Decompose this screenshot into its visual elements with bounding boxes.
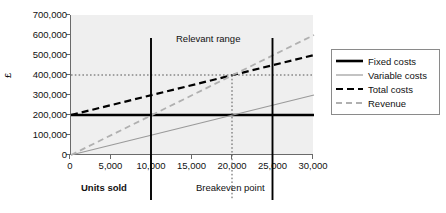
x-axis-tick	[69, 155, 70, 159]
x-axis-tick	[272, 155, 273, 159]
x-axis-tick-label: 30,000	[283, 161, 343, 171]
y-axis-tick-label: 400,000	[33, 70, 67, 80]
x-axis-tick	[191, 155, 192, 159]
legend-swatch-icon	[335, 55, 364, 67]
series-line-total-costs	[71, 55, 314, 115]
y-axis-tick-label: 700,000	[33, 10, 67, 20]
legend-item-total-costs[interactable]: Total costs	[335, 82, 435, 96]
breakeven-chart-figure: £ 0100,000200,000300,000400,000500,00060…	[0, 0, 446, 213]
legend: Fixed costsVariable costsTotal costsReve…	[331, 49, 440, 115]
legend-item-fixed-costs[interactable]: Fixed costs	[335, 54, 435, 68]
y-axis-title: £	[2, 73, 13, 78]
legend-swatch-icon	[335, 97, 364, 109]
legend-label: Fixed costs	[368, 56, 416, 67]
y-axis-tick-label: 100,000	[33, 130, 67, 140]
legend-swatch-icon	[335, 69, 364, 81]
x-axis-tick	[231, 155, 232, 159]
legend-swatch-icon	[335, 83, 364, 95]
y-axis-tick-label: 600,000	[33, 30, 67, 40]
breakeven-point-label: Breakeven point	[196, 182, 265, 193]
series-line-revenue	[71, 35, 314, 155]
y-axis-tick-label: 300,000	[33, 90, 67, 100]
units-sold-label: Units sold	[81, 182, 127, 193]
legend-label: Variable costs	[368, 70, 427, 81]
y-axis-tick-label: 0	[62, 150, 67, 160]
y-axis-tick-label: 200,000	[33, 110, 67, 120]
y-axis-tick-label: 500,000	[33, 50, 67, 60]
legend-label: Total costs	[368, 84, 413, 95]
legend-item-revenue[interactable]: Revenue	[335, 96, 435, 110]
x-axis-tick	[110, 155, 111, 159]
legend-item-variable-costs[interactable]: Variable costs	[335, 68, 435, 82]
relevant-range-label: Relevant range	[176, 33, 240, 44]
legend-label: Revenue	[368, 98, 406, 109]
x-axis-tick	[150, 155, 151, 159]
series-line-variable-costs	[71, 95, 314, 155]
x-axis-tick	[312, 155, 313, 159]
